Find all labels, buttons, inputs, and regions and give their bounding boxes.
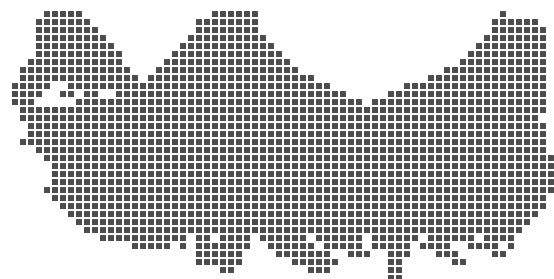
map-dot <box>204 19 210 25</box>
map-dot <box>196 35 202 41</box>
map-dot <box>156 243 162 249</box>
map-dot <box>164 99 170 105</box>
map-dot <box>212 27 218 33</box>
map-dot <box>300 171 306 177</box>
map-dot <box>468 147 474 153</box>
map-dot <box>276 243 282 249</box>
map-dot <box>44 139 50 145</box>
map-dot <box>68 43 74 49</box>
map-dot <box>444 179 450 185</box>
map-dot <box>268 59 274 65</box>
map-dot <box>148 243 154 249</box>
map-dot <box>52 123 58 129</box>
map-dot <box>284 251 290 257</box>
map-dot <box>268 123 274 129</box>
map-dot <box>188 43 194 49</box>
map-dot <box>380 163 386 169</box>
map-dot <box>324 187 330 193</box>
map-dot <box>276 75 282 81</box>
map-dot <box>340 91 346 97</box>
map-dot <box>532 67 538 73</box>
map-dot <box>428 163 434 169</box>
map-dot <box>204 107 210 113</box>
map-dot <box>308 203 314 209</box>
map-dot <box>292 123 298 129</box>
map-dot <box>516 139 522 145</box>
map-dot <box>444 203 450 209</box>
map-dot <box>228 211 234 217</box>
map-dot <box>308 91 314 97</box>
map-dot <box>396 259 402 265</box>
map-dot <box>460 147 466 153</box>
map-dot <box>540 67 546 73</box>
map-dot <box>476 203 482 209</box>
map-dot <box>340 115 346 121</box>
map-dot <box>196 203 202 209</box>
map-dot <box>244 59 250 65</box>
map-dot <box>380 155 386 161</box>
map-dot <box>76 171 82 177</box>
map-dot <box>364 131 370 137</box>
map-dot <box>244 27 250 33</box>
map-dot <box>420 99 426 105</box>
map-dot <box>540 43 546 49</box>
map-dot <box>332 219 338 225</box>
map-dot <box>140 163 146 169</box>
map-dot <box>236 147 242 153</box>
map-dot <box>388 171 394 177</box>
map-dot <box>228 267 234 273</box>
map-dot <box>428 211 434 217</box>
map-dot <box>260 203 266 209</box>
map-dot <box>92 43 98 49</box>
map-dot <box>228 195 234 201</box>
map-dot <box>108 59 114 65</box>
map-dot <box>212 11 218 17</box>
map-dot <box>348 211 354 217</box>
map-dot <box>516 83 522 89</box>
map-dot <box>20 139 26 145</box>
map-dot <box>292 155 298 161</box>
map-dot <box>236 155 242 161</box>
map-dot <box>204 179 210 185</box>
map-dot <box>316 163 322 169</box>
map-dot <box>132 107 138 113</box>
map-dot <box>476 219 482 225</box>
map-dot <box>460 115 466 121</box>
map-dot <box>372 115 378 121</box>
map-dot <box>524 83 530 89</box>
map-dot <box>548 163 554 169</box>
map-dot <box>244 131 250 137</box>
map-dot <box>388 195 394 201</box>
map-dot <box>252 35 258 41</box>
map-dot <box>132 75 138 81</box>
map-dot <box>204 123 210 129</box>
map-dot <box>308 243 314 249</box>
map-dot <box>452 67 458 73</box>
map-dot <box>452 211 458 217</box>
map-dot <box>28 115 34 121</box>
map-dot <box>316 155 322 161</box>
map-dot <box>60 27 66 33</box>
map-dot <box>420 139 426 145</box>
map-dot <box>340 211 346 217</box>
map-dot <box>84 155 90 161</box>
map-dot <box>324 227 330 233</box>
map-dot <box>356 107 362 113</box>
map-dot <box>212 259 218 265</box>
map-dot <box>316 123 322 129</box>
map-dot <box>196 83 202 89</box>
map-dot <box>468 243 474 249</box>
map-dot <box>300 91 306 97</box>
map-dot <box>348 195 354 201</box>
map-dot <box>396 163 402 169</box>
map-dot <box>92 83 98 89</box>
map-dot <box>388 139 394 145</box>
map-dot <box>36 131 42 137</box>
map-dot <box>12 99 18 105</box>
map-dot <box>268 171 274 177</box>
map-dot <box>100 147 106 153</box>
map-dot <box>484 155 490 161</box>
map-dot <box>516 227 522 233</box>
map-dot <box>156 155 162 161</box>
map-dot <box>460 91 466 97</box>
